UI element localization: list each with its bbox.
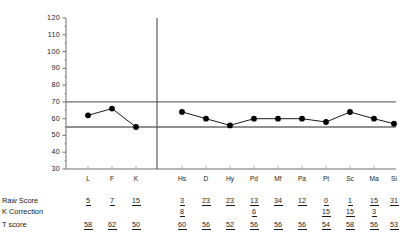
raw-score-cell-Pa: 12 [289,196,315,205]
t-score-cell-Pa: 56 [289,220,315,229]
data-point-K [133,124,139,130]
t-score-cell-Pd: 56 [241,220,267,229]
validity-scale-markers [85,106,139,130]
row-label-k-correction: K Correction [2,207,43,216]
scale-label-Pd: Pd [241,175,267,183]
t-score-cell-Hy: 52 [217,220,243,229]
t-score-cell-Mf: 56 [265,220,291,229]
raw-score-cell-Pd: 13 [241,196,267,205]
scale-label-D: D [193,175,219,183]
raw-score-cell-Hy: 23 [217,196,243,205]
data-point-Pt [323,119,329,125]
scale-label-F: F [99,175,125,183]
y-tick-90: 90 [34,64,60,72]
data-point-Pd [251,116,257,122]
raw-score-cell-D: 23 [193,196,219,205]
t-score-cell-Sc: 58 [337,220,363,229]
data-point-Hy [227,123,233,129]
scale-label-L: L [75,175,101,183]
k-correction-cell-Pd: 6 [241,207,267,216]
data-point-Si [391,121,397,127]
k-correction-cell-Sc: 15 [337,207,363,216]
raw-score-cell-K: 15 [123,196,149,205]
scale-label-Pt: Pt [313,175,339,183]
raw-score-cell-Si: 31 [381,196,400,205]
scale-label-Sc: Sc [337,175,363,183]
t-score-cell-Hs: 60 [169,220,195,229]
t-score-cell-L: 58 [75,220,101,229]
k-correction-cell-Hs: 8 [169,207,195,216]
t-score-cell-F: 62 [99,220,125,229]
scale-label-Hy: Hy [217,175,243,183]
scale-label-Pa: Pa [289,175,315,183]
clinical-scale-line [182,112,394,126]
y-tick-50: 50 [34,131,60,139]
data-point-Pa [299,116,305,122]
y-tick-40: 40 [34,148,60,156]
row-label-raw-score: Raw Score [2,196,38,205]
t-score-cell-Si: 53 [381,220,400,229]
raw-score-cell-Mf: 34 [265,196,291,205]
y-tick-30: 30 [34,165,60,173]
scale-label-K: K [123,175,149,183]
y-tick-110: 110 [34,31,60,39]
raw-score-cell-Hs: 3 [169,196,195,205]
y-tick-120: 120 [34,14,60,22]
raw-score-cell-L: 5 [75,196,101,205]
y-tick-70: 70 [34,98,60,106]
k-correction-cell-Ma: 3 [361,207,387,216]
data-point-F [109,106,115,112]
data-point-Sc [347,109,353,115]
scale-label-Mf: Mf [265,175,291,183]
raw-score-cell-F: 7 [99,196,125,205]
t-score-cell-D: 56 [193,220,219,229]
data-point-Hs [179,109,185,115]
row-label-t-score: T score [2,220,27,229]
y-tick-80: 80 [34,81,60,89]
data-point-Mf [275,116,281,122]
raw-score-cell-Sc: 1 [337,196,363,205]
y-tick-60: 60 [34,115,60,123]
mmpi-profile-chart: 120 110 100 90 80 70 60 50 40 30 L F K H… [0,0,400,238]
data-point-Ma [371,116,377,122]
t-score-cell-Pt: 54 [313,220,339,229]
scale-label-Si: Si [381,175,400,183]
t-score-cell-K: 50 [123,220,149,229]
data-point-L [85,112,91,118]
scale-label-Hs: Hs [169,175,195,183]
y-tick-100: 100 [34,48,60,56]
data-point-D [203,116,209,122]
k-correction-cell-Pt: 15 [313,207,339,216]
raw-score-cell-Pt: 0 [313,196,339,205]
